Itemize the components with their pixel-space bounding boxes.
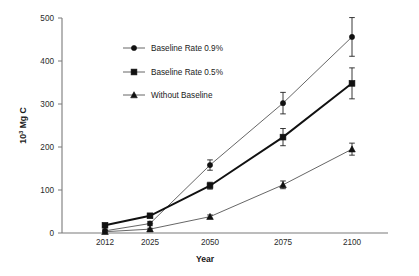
- chart-legend: Baseline Rate 0.9%Baseline Rate 0.5%With…: [123, 44, 223, 100]
- series-line: [105, 37, 352, 231]
- x-tick-label: 2050: [201, 238, 220, 247]
- legend-label: Baseline Rate 0.5%: [151, 68, 223, 77]
- series-line: [105, 149, 352, 232]
- data-point-marker: [349, 146, 356, 152]
- data-point-marker: [207, 213, 214, 219]
- y-tick-label: 500: [40, 14, 54, 23]
- data-series: [102, 18, 356, 235]
- x-tick-label: 2012: [96, 238, 115, 247]
- y-axis-title: 103 Mg C: [18, 107, 28, 143]
- data-point-marker: [207, 183, 213, 189]
- line-chart-canvas: 0100200300400500 20122025205020752100 Ba…: [0, 0, 419, 276]
- data-point-marker: [207, 162, 212, 167]
- axes: [62, 18, 388, 233]
- y-tick-label: 300: [40, 100, 54, 109]
- legend-label: Baseline Rate 0.9%: [151, 44, 223, 53]
- x-axis-title: Year: [196, 254, 215, 264]
- y-axis-ticks: 0100200300400500: [40, 14, 62, 238]
- data-point-marker: [349, 34, 354, 39]
- data-point-marker: [280, 182, 287, 188]
- y-tick-label: 0: [49, 229, 54, 238]
- y-tick-label: 400: [40, 57, 54, 66]
- legend-item-3[interactable]: Without Baseline: [123, 91, 213, 100]
- data-point-marker: [280, 101, 285, 106]
- x-tick-label: 2100: [343, 238, 362, 247]
- y-tick-label: 200: [40, 143, 54, 152]
- legend-label: Without Baseline: [151, 91, 213, 100]
- data-point-marker: [147, 213, 153, 219]
- series-3: [102, 143, 356, 234]
- x-axis-ticks: 20122025205020752100: [96, 238, 362, 247]
- x-tick-label: 2075: [274, 238, 293, 247]
- chart-figure: 0100200300400500 20122025205020752100 Ba…: [0, 0, 419, 276]
- data-point-marker: [349, 80, 355, 86]
- series-2: [102, 68, 355, 228]
- x-tick-label: 2025: [141, 238, 160, 247]
- legend-item-2[interactable]: Baseline Rate 0.5%: [123, 68, 223, 77]
- series-1: [102, 18, 355, 234]
- data-point-marker: [131, 45, 136, 50]
- data-point-marker: [280, 134, 286, 140]
- data-point-marker: [131, 69, 137, 75]
- data-point-marker: [102, 222, 108, 228]
- legend-item-1[interactable]: Baseline Rate 0.9%: [123, 44, 223, 53]
- series-line: [105, 83, 352, 225]
- y-tick-label: 100: [40, 186, 54, 195]
